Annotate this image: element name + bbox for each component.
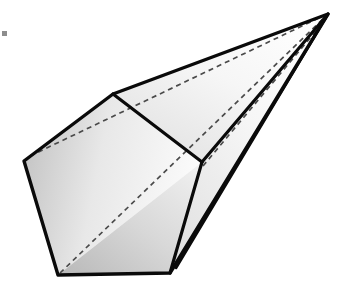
figure-canvas	[0, 0, 344, 298]
polyhedron-figure	[0, 0, 344, 298]
corner-speck-artifact	[2, 31, 7, 36]
